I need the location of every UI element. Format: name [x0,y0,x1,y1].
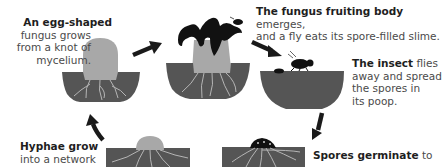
fungus-stalk-lower [193,63,231,73]
insect-stage-illustration [260,51,344,109]
soil-bowl [260,71,344,109]
caption-hyphae-bold: Hyphae grow [20,140,98,152]
caption-hyphae-stage: Hyphae grow into a network [20,140,110,165]
hyphae-stage-illustration [106,136,190,167]
caption-egg-bold: An egg-shaped [23,16,112,28]
caption-spores-rest: to [419,149,433,161]
fly-icon [288,51,314,71]
caption-egg-stage: An egg-shaped fungus grows from a knot o… [8,16,112,66]
egg-fungus-base [83,72,118,80]
caption-fruiting-line2: and a fly eats its spore-filled slime. [256,30,442,43]
spore-mound [250,138,276,148]
arrow-hyphae-to-egg [86,114,103,140]
caption-egg-line: fungus grows [8,29,112,42]
arrow-fruiting-to-insect [252,42,282,57]
arrow-egg-to-fruiting [133,41,162,55]
fly-icon [230,17,243,25]
caption-egg-line: from a knot of [8,41,112,54]
caption-insect-rest: flies [413,57,438,69]
caption-insect-line: away and spread [352,70,442,83]
caption-spores-bold: Spores germinate [313,149,419,161]
fruiting-stage-illustration [166,17,250,99]
caption-insect-line: the spores in [352,82,442,95]
caption-hyphae-line: into a network [20,153,110,166]
caption-insect-line: its poop. [352,95,442,108]
caption-egg-line: mycelium. [8,54,112,67]
caption-fruiting-rest: emerges, [256,18,305,30]
spores-stage-illustration [222,138,305,167]
caption-insect-stage: The insect flies away and spread the spo… [352,57,442,107]
caption-fruiting-stage: The fungus fruiting body emerges, and a … [256,5,442,43]
arrow-insect-to-spores [312,113,322,140]
caption-insect-bold: The insect [352,57,413,69]
caption-spores-stage: Spores germinate to [313,149,442,162]
caption-fruiting-bold: The fungus fruiting body [256,5,403,17]
fungus-knot [136,136,164,150]
poop-mound [274,69,284,74]
soil-bowl [106,148,190,167]
